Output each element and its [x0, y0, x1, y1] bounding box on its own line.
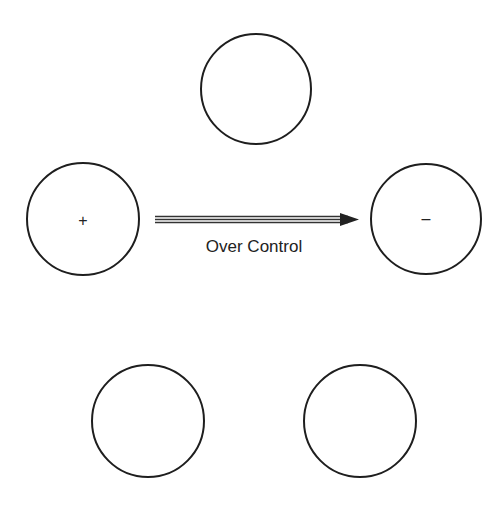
over-control-arrow [155, 213, 359, 226]
plus-sign: + [78, 212, 87, 229]
diagram-canvas: + – Over Control [0, 0, 496, 506]
node-bottom-left [92, 365, 204, 477]
node-left: + [27, 163, 139, 275]
node-top [201, 34, 311, 144]
edge-label: Over Control [206, 237, 302, 256]
arrowhead-icon [340, 213, 359, 226]
node-bottom-right [304, 365, 416, 477]
minus-sign: – [422, 210, 431, 227]
node-right: – [371, 164, 481, 274]
